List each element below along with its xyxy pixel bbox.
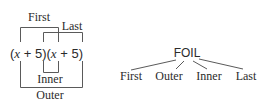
expr-end: + 5) <box>57 46 83 61</box>
foil-child-last: Last <box>236 69 257 83</box>
outer-label: Outer <box>36 88 63 102</box>
binomial-product-expression: (x + 5)(x + 5) <box>10 46 83 61</box>
first-label: First <box>28 10 51 24</box>
branch-outer <box>176 61 184 69</box>
foil-bracket-diagram: First Last (x + 5)(x + 5) Inner Outer <box>10 10 83 102</box>
foil-tree-diagram: FOIL First Outer Inner Last <box>120 46 257 83</box>
last-bracket <box>44 33 83 43</box>
foil-figure-svg: First Last (x + 5)(x + 5) Inner Outer FO… <box>0 0 265 105</box>
inner-bracket <box>44 61 59 73</box>
foil-child-first: First <box>120 69 143 83</box>
expr-mid: + 5)( <box>20 46 51 61</box>
foil-child-outer: Outer <box>155 69 182 83</box>
inner-label: Inner <box>37 72 62 86</box>
foil-root-label: FOIL <box>174 46 201 60</box>
first-bracket <box>21 28 59 43</box>
last-label: Last <box>62 19 83 33</box>
foil-figure: First Last (x + 5)(x + 5) Inner Outer FO… <box>0 0 265 105</box>
branch-inner <box>193 61 207 69</box>
branch-last <box>199 59 243 69</box>
foil-child-inner: Inner <box>196 69 221 83</box>
